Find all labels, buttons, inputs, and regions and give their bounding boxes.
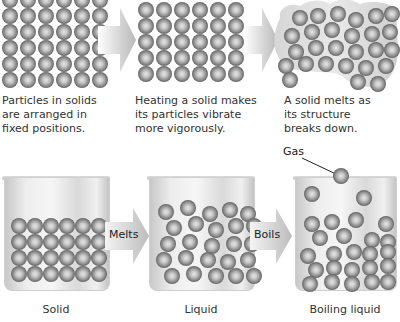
particle bbox=[156, 18, 172, 34]
particle bbox=[38, 0, 54, 8]
particle bbox=[20, 72, 36, 88]
particle bbox=[208, 222, 224, 238]
particle bbox=[304, 24, 320, 40]
particle bbox=[246, 268, 262, 284]
particle bbox=[192, 66, 208, 82]
particle bbox=[302, 276, 318, 292]
particle bbox=[59, 250, 75, 266]
panel-vibrating-lattice bbox=[134, 0, 244, 85]
particle bbox=[59, 266, 75, 282]
particle bbox=[180, 200, 196, 216]
particle bbox=[20, 24, 36, 40]
particle bbox=[310, 8, 326, 24]
particle bbox=[91, 266, 107, 282]
particle bbox=[11, 266, 27, 282]
beaker-boiling bbox=[295, 178, 397, 291]
particle bbox=[138, 34, 154, 50]
particle bbox=[228, 218, 244, 234]
particle bbox=[43, 250, 59, 266]
particle bbox=[27, 266, 43, 282]
particle bbox=[11, 218, 27, 234]
particle bbox=[192, 2, 208, 18]
particle bbox=[382, 24, 398, 40]
particle bbox=[20, 56, 36, 72]
particle bbox=[74, 8, 90, 24]
particle bbox=[166, 220, 182, 236]
particle bbox=[38, 24, 54, 40]
particle bbox=[27, 218, 43, 234]
particle bbox=[156, 66, 172, 82]
particle bbox=[228, 2, 244, 18]
particle bbox=[156, 34, 172, 50]
caption-line: more vigorously. bbox=[135, 122, 257, 136]
particle bbox=[56, 0, 72, 8]
particle bbox=[378, 58, 394, 74]
particle bbox=[338, 58, 354, 74]
particle bbox=[228, 268, 244, 284]
particle bbox=[228, 34, 244, 50]
label-liquid: Liquid bbox=[149, 303, 253, 316]
particle bbox=[174, 2, 190, 18]
particle bbox=[324, 22, 340, 38]
particle bbox=[318, 56, 334, 72]
particle bbox=[346, 244, 362, 260]
particle bbox=[74, 72, 90, 88]
particle bbox=[378, 216, 394, 232]
particle bbox=[324, 274, 340, 290]
particle bbox=[38, 8, 54, 24]
particle bbox=[11, 250, 27, 266]
particle bbox=[308, 40, 324, 56]
particle bbox=[328, 40, 344, 56]
particle bbox=[38, 40, 54, 56]
particle bbox=[228, 50, 244, 66]
particle bbox=[138, 2, 154, 18]
particle bbox=[186, 266, 202, 282]
particle bbox=[2, 24, 18, 40]
arrow-label-melts: Melts bbox=[109, 228, 138, 241]
particle bbox=[368, 8, 384, 24]
caption-line: A solid melts as bbox=[284, 94, 371, 108]
particle bbox=[188, 216, 204, 232]
caption-line: are arranged in bbox=[2, 108, 97, 122]
particle bbox=[74, 0, 90, 8]
gas-particle bbox=[333, 168, 349, 184]
particle bbox=[56, 72, 72, 88]
particle bbox=[344, 276, 360, 292]
particle bbox=[174, 66, 190, 82]
caption-solid: Particles in solids are arranged in fixe… bbox=[2, 94, 97, 136]
beaker-solid bbox=[4, 178, 110, 291]
particle bbox=[43, 218, 59, 234]
particle bbox=[348, 12, 364, 28]
particle bbox=[38, 56, 54, 72]
arrow-label-boils: Boils bbox=[254, 228, 280, 241]
particle bbox=[2, 40, 18, 56]
particle bbox=[336, 228, 352, 244]
particle bbox=[182, 234, 198, 250]
particle bbox=[74, 24, 90, 40]
particle bbox=[192, 50, 208, 66]
particle bbox=[160, 236, 176, 252]
particle bbox=[292, 10, 308, 26]
panel-solid-lattice bbox=[0, 0, 110, 85]
particle bbox=[56, 56, 72, 72]
label-boiling-liquid: Boiling liquid bbox=[290, 303, 400, 316]
particle bbox=[92, 0, 108, 8]
particle bbox=[384, 42, 400, 58]
particle bbox=[192, 34, 208, 50]
particle bbox=[356, 190, 372, 206]
particle bbox=[380, 274, 396, 290]
beaker-liquid bbox=[149, 178, 255, 291]
panel-melting-blob bbox=[272, 0, 398, 90]
particle bbox=[174, 50, 190, 66]
particle bbox=[370, 76, 386, 92]
caption-line: its structure bbox=[284, 108, 371, 122]
particle bbox=[174, 18, 190, 34]
particle bbox=[210, 18, 226, 34]
particle bbox=[156, 2, 172, 18]
particle bbox=[226, 236, 242, 252]
particle bbox=[228, 18, 244, 34]
particle bbox=[298, 56, 314, 72]
particle bbox=[210, 34, 226, 50]
particle bbox=[222, 202, 238, 218]
particle bbox=[210, 66, 226, 82]
